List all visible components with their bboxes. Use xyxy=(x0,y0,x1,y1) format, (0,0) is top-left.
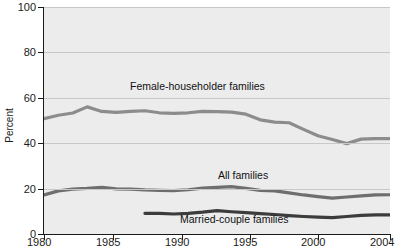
gridline-60 xyxy=(44,98,390,99)
y-axis-title: Percent xyxy=(4,96,15,156)
y-tick-60 xyxy=(38,98,43,99)
poverty-rate-line-chart: 100 80 60 40 20 0 Percent 1980 1985 1990… xyxy=(0,0,402,249)
y-tick-0 xyxy=(38,234,43,235)
x-label-1980: 1980 xyxy=(27,237,51,248)
y-label-20: 20 xyxy=(2,184,36,195)
y-tick-20 xyxy=(38,189,43,190)
series-lines xyxy=(44,7,390,234)
series-label-female-householder-families: Female-householder families xyxy=(130,81,265,92)
x-label-2004: 2004 xyxy=(370,237,394,248)
x-label-2000: 2000 xyxy=(301,237,325,248)
x-axis-line xyxy=(43,234,391,235)
gridline-100 xyxy=(44,7,390,8)
gridline-20 xyxy=(44,189,390,190)
y-label-80: 80 xyxy=(2,47,36,58)
plot-area xyxy=(44,7,390,234)
y-tick-100 xyxy=(38,7,43,8)
y-tick-80 xyxy=(38,52,43,53)
line-female-householder-families xyxy=(44,107,390,144)
gridline-40 xyxy=(44,143,390,144)
y-tick-40 xyxy=(38,143,43,144)
x-label-1990: 1990 xyxy=(165,237,189,248)
x-label-1985: 1985 xyxy=(96,237,120,248)
x-label-1995: 1995 xyxy=(233,237,257,248)
gridline-80 xyxy=(44,52,390,53)
y-axis-line xyxy=(43,7,44,235)
series-label-all-families: All families xyxy=(218,170,268,181)
y-label-100: 100 xyxy=(2,2,36,13)
series-label-married-couple-families: Married-couple families xyxy=(180,214,289,225)
